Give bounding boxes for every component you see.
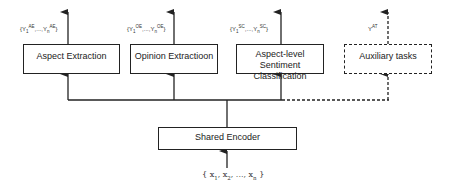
output-label-sc: {Y1SC,...,YnSC} bbox=[230, 24, 268, 34]
task-box-sentiment-classification: Aspect-level Sentiment Classification bbox=[236, 44, 324, 74]
input-sequence-label: { x1, x2, ..., xn } bbox=[202, 170, 264, 181]
task-label: Aspect Extraction bbox=[36, 51, 106, 62]
connector-lines bbox=[0, 0, 457, 187]
shared-encoder-box: Shared Encoder bbox=[158, 127, 297, 150]
output-label-oe: {Y1OE,...,YnOE} bbox=[127, 24, 165, 34]
output-label-at: YAT bbox=[368, 24, 377, 32]
output-label-ae: {Y1AE,...,YnAE} bbox=[20, 24, 57, 34]
task-label: Opinion Extractioon bbox=[135, 51, 214, 62]
task-box-opinion-extraction: Opinion Extractioon bbox=[130, 44, 218, 74]
task-label: Auxiliary tasks bbox=[359, 51, 417, 62]
task-box-auxiliary: Auxiliary tasks bbox=[344, 44, 432, 74]
task-box-aspect-extraction: Aspect Extraction bbox=[23, 44, 120, 74]
task-label: Aspect-level Sentiment Classification bbox=[237, 49, 323, 82]
encoder-label: Shared Encoder bbox=[195, 132, 260, 143]
